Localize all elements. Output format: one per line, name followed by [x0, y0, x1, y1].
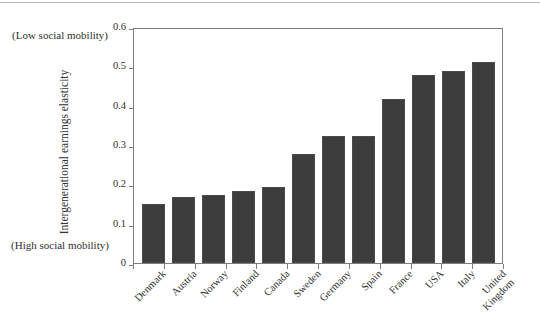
bar-slot: [378, 29, 408, 263]
x-tick-mark: [503, 264, 504, 269]
bar: [262, 187, 285, 263]
y-tick-label: 0.6: [86, 21, 126, 32]
bar: [142, 204, 165, 263]
y-axis-title: Intergenerational earnings elasticity: [58, 32, 70, 272]
bar-slot: [319, 29, 349, 263]
bar: [472, 62, 495, 263]
bar: [412, 75, 435, 263]
bar-slot: [259, 29, 289, 263]
bar: [382, 99, 405, 263]
bar: [352, 136, 375, 263]
y-tick-label: 0.1: [86, 218, 126, 229]
bar-slot: [408, 29, 438, 263]
bar: [442, 71, 465, 263]
bar-slot: [348, 29, 378, 263]
bar: [292, 154, 315, 263]
bar-slot: [468, 29, 498, 263]
bar-slot: [139, 29, 169, 263]
bar: [202, 195, 225, 263]
bar-slot: [438, 29, 468, 263]
bar-slot: [289, 29, 319, 263]
bar-slot: [169, 29, 199, 263]
y-tick-label: 0.3: [86, 139, 126, 150]
y-tick-label: 0.2: [86, 178, 126, 189]
bar: [232, 191, 255, 263]
y-tick-label: 0.5: [86, 60, 126, 71]
bar-slot: [229, 29, 259, 263]
page-scan-edge: [0, 2, 540, 3]
bar: [172, 197, 195, 263]
y-tick-label: 0: [86, 257, 126, 268]
plot-area: 00.10.20.30.40.50.6: [133, 28, 503, 264]
bar-slot: [199, 29, 229, 263]
x-axis-labels: DenmarkAustriaNorwayFinlandCanadaSwedenG…: [133, 268, 503, 317]
y-tick-label: 0.4: [86, 100, 126, 111]
bar-series: [134, 29, 502, 263]
bar: [322, 136, 345, 263]
chart-figure: (Low social mobility) (High social mobil…: [0, 0, 540, 317]
